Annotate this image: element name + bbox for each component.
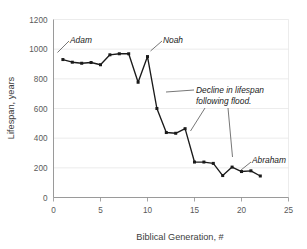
data-point-gen-8: [127, 52, 130, 55]
chart-canvas: 0510152025 020040060080010001200 Biblica…: [0, 0, 307, 249]
data-point-gen-19: [231, 166, 234, 169]
annotation-decline-line2: following flood.: [196, 96, 251, 106]
x-tick-label-20: 20: [237, 206, 247, 215]
data-point-gen-20: [240, 170, 243, 173]
y-tick-label-1200: 1200: [29, 16, 48, 25]
data-point-gen-17: [212, 162, 215, 165]
x-tick-label-5: 5: [98, 206, 103, 215]
x-tick-label-10: 10: [143, 206, 153, 215]
annotation-abraham: Abraham: [251, 155, 286, 165]
annotation-decline-line1: Decline in lifespan: [196, 85, 264, 95]
data-point-gen-14: [184, 127, 187, 130]
data-point-gen-10: [146, 55, 149, 58]
chart-background: [0, 0, 307, 249]
y-tick-label-400: 400: [34, 134, 48, 143]
annotation-noah: Noah: [163, 35, 183, 45]
data-point-gen-2: [71, 61, 74, 64]
x-tick-label-15: 15: [190, 206, 200, 215]
data-point-gen-22: [259, 174, 262, 177]
y-tick-label-0: 0: [43, 194, 48, 203]
data-point-gen-13: [174, 132, 177, 135]
data-point-gen-12: [165, 131, 168, 134]
data-point-gen-16: [202, 161, 205, 164]
data-point-gen-15: [193, 161, 196, 164]
data-point-gen-7: [118, 52, 121, 55]
x-tick-label-0: 0: [51, 206, 56, 215]
y-tick-label-1000: 1000: [29, 45, 48, 54]
data-point-gen-5: [99, 63, 102, 66]
data-point-gen-18: [221, 174, 224, 177]
annotation-adam: Adam: [69, 35, 92, 45]
data-point-gen-3: [80, 62, 83, 65]
y-tick-label-200: 200: [34, 164, 48, 173]
y-axis-title: Lifespan, years: [6, 76, 16, 139]
x-tick-label-25: 25: [284, 206, 294, 215]
y-tick-label-600: 600: [34, 105, 48, 114]
lifespan-chart: 0510152025 020040060080010001200 Biblica…: [0, 0, 307, 249]
data-point-gen-21: [249, 169, 252, 172]
data-point-gen-4: [90, 61, 93, 64]
y-tick-label-800: 800: [34, 75, 48, 84]
x-axis-title: Biblical Generation, #: [136, 232, 224, 242]
data-point-gen-6: [108, 53, 111, 56]
data-point-gen-1: [61, 58, 64, 61]
data-point-gen-9: [137, 81, 140, 84]
data-point-gen-11: [155, 107, 158, 110]
